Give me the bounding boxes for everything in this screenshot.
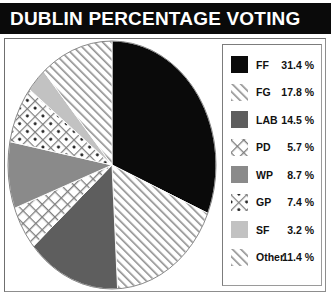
swatch-ff-icon bbox=[231, 56, 248, 73]
page-title: DUBLIN PERCENTAGE VOTING bbox=[10, 8, 301, 30]
swatch-other-icon bbox=[231, 249, 248, 266]
swatch-wp-icon bbox=[231, 166, 248, 183]
legend-label-sf: SF bbox=[256, 224, 269, 236]
legend-value-lab: 14.5 % bbox=[281, 114, 314, 126]
legend-label-pd: PD bbox=[256, 141, 271, 153]
chart-screenshot: DUBLIN PERCENTAGE VOTING bbox=[0, 0, 331, 301]
legend-value-pd: 5.7 % bbox=[287, 141, 314, 153]
legend-value-wp: 8.7 % bbox=[287, 169, 314, 181]
legend-label-gp: GP bbox=[256, 196, 271, 208]
legend-value-fg: 17.8 % bbox=[281, 86, 314, 98]
legend-item-gp[interactable]: GP 7.4 % bbox=[223, 189, 321, 217]
legend-item-lab[interactable]: LAB 14.5 % bbox=[223, 106, 321, 134]
swatch-sf-icon bbox=[231, 221, 248, 238]
legend-item-ff[interactable]: FF 31.4 % bbox=[223, 51, 321, 79]
legend-value-other: 11.4 % bbox=[282, 251, 314, 263]
legend-item-fg[interactable]: FG 17.8 % bbox=[223, 79, 321, 107]
legend-item-other[interactable]: Other 11.4 % bbox=[223, 244, 321, 272]
legend-label-wp: WP bbox=[256, 169, 273, 181]
pie-slices bbox=[8, 41, 216, 289]
legend-label-fg: FG bbox=[256, 86, 271, 98]
swatch-pd-icon bbox=[231, 139, 248, 156]
legend-label-other: Other bbox=[256, 251, 284, 263]
legend: FF 31.4 % FG 17.8 % LAB 14.5 % PD 5.7 % bbox=[222, 44, 322, 286]
legend-label-lab: LAB bbox=[256, 114, 278, 126]
legend-item-sf[interactable]: SF 3.2 % bbox=[223, 216, 321, 244]
swatch-gp-icon bbox=[231, 194, 248, 211]
legend-value-ff: 31.4 % bbox=[281, 59, 314, 71]
pie-chart-area bbox=[4, 38, 220, 292]
title-bar: DUBLIN PERCENTAGE VOTING bbox=[0, 3, 331, 34]
legend-label-ff: FF bbox=[256, 59, 269, 71]
swatch-fg-icon bbox=[231, 84, 248, 101]
legend-value-gp: 7.4 % bbox=[287, 196, 314, 208]
legend-item-pd[interactable]: PD 5.7 % bbox=[223, 134, 321, 162]
legend-item-wp[interactable]: WP 8.7 % bbox=[223, 161, 321, 189]
pie-chart bbox=[4, 38, 220, 292]
swatch-lab-icon bbox=[231, 111, 248, 128]
legend-value-sf: 3.2 % bbox=[287, 224, 314, 236]
